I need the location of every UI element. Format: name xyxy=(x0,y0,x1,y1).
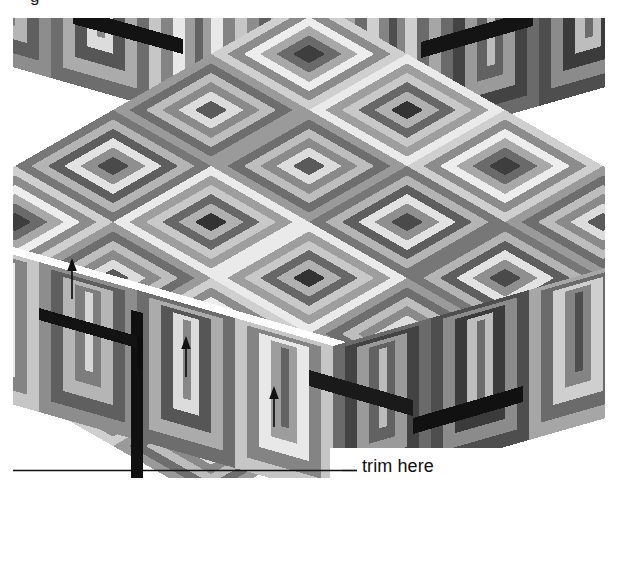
trim-here-label: trim here xyxy=(362,456,434,477)
isometric-illustration xyxy=(13,18,605,478)
figure-root: g xyxy=(0,0,620,563)
illustration-canvas xyxy=(13,18,605,478)
clipped-text-fragment: g xyxy=(30,0,40,7)
illustration-body xyxy=(13,18,605,478)
